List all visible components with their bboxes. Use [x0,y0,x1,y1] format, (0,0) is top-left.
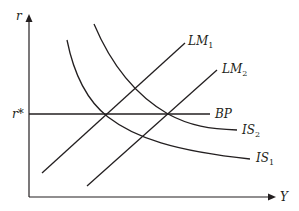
is2-label: IS2 [241,123,260,139]
lm2-label: LM2 [221,62,247,78]
lm1-label: LM1 [187,34,213,50]
lm2-curve [87,70,217,186]
x-axis-label: Y [280,190,289,204]
is1-curve [67,40,250,159]
y-axis-label: r [16,9,23,23]
lm1-curve [42,43,185,173]
x-axis [29,194,276,201]
y-axis [26,14,33,197]
r-star-label: r* [12,107,24,121]
is1-label: IS1 [255,151,274,167]
is-lm-bp-diagram: r Y r* LM1 LM2 BP IS2 IS1 [0,0,299,211]
x-axis-arrow-icon [268,194,276,201]
bp-label: BP [214,107,233,121]
y-axis-arrow-icon [26,14,33,22]
